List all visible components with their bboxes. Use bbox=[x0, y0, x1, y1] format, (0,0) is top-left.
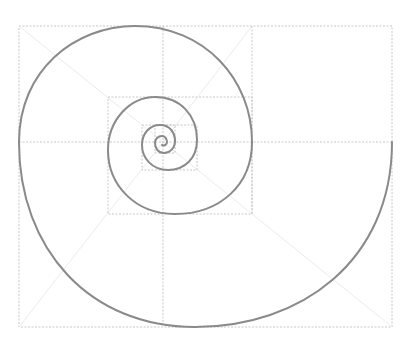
diagonal-line bbox=[19, 26, 163, 142]
golden-spiral-diagram bbox=[0, 0, 405, 347]
diagonal-line bbox=[163, 26, 252, 142]
